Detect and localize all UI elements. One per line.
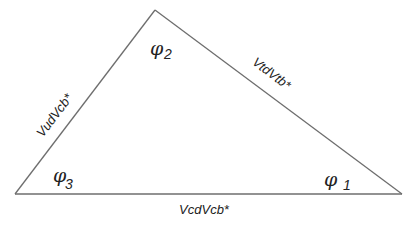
angle-phi3-label: φ 3 bbox=[53, 164, 73, 192]
left-side-edge bbox=[15, 10, 155, 194]
phi-subscript: 1 bbox=[343, 177, 351, 193]
unitarity-triangle-diagram: VudVcb* VtdVtb* VcdVcb* φ 2 φ 3 φ 1 bbox=[0, 0, 410, 230]
bottom-side-label: VcdVcb* bbox=[179, 202, 230, 217]
right-side-edge bbox=[155, 10, 402, 194]
phi-symbol: φ bbox=[150, 37, 164, 59]
phi-subscript: 2 bbox=[163, 46, 172, 62]
angle-phi1-label: φ 1 bbox=[324, 168, 351, 193]
angle-phi2-label: φ 2 bbox=[150, 37, 172, 62]
phi-subscript: 3 bbox=[65, 176, 73, 192]
left-side-label: VudVcb* bbox=[33, 90, 76, 140]
right-side-label: VtdVtb* bbox=[250, 54, 295, 93]
phi-symbol: φ bbox=[324, 168, 338, 190]
